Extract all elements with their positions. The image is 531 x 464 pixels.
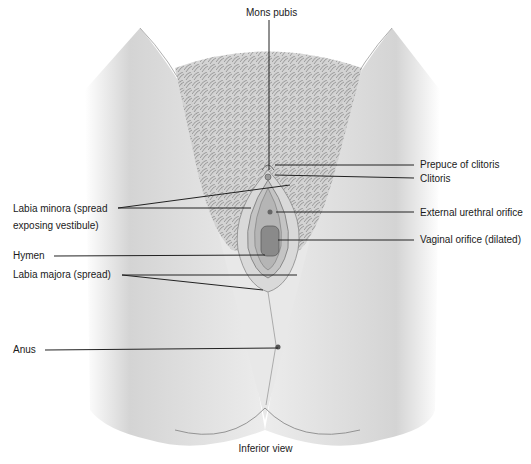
urethral-orifice-shape <box>268 210 273 215</box>
label-labia-majora: Labia majora (spread) <box>13 268 111 282</box>
label-hymen: Hymen <box>13 249 45 263</box>
label-prepuce-of-clitoris: Prepuce of clitoris <box>420 158 499 172</box>
label-labia-minora: Labia minora (spread exposing vestibule) <box>13 200 108 234</box>
label-vaginal-orifice: Vaginal orifice (dilated) <box>420 233 521 247</box>
label-mons-pubis: Mons pubis <box>246 6 297 20</box>
label-clitoris: Clitoris <box>420 172 451 186</box>
label-labia-minora-line1: Labia minora (spread <box>13 200 108 217</box>
label-labia-minora-line2: exposing vestibule) <box>13 217 108 234</box>
label-anus: Anus <box>13 343 36 357</box>
figure-caption: Inferior view <box>0 443 531 454</box>
anus-shape <box>276 345 281 350</box>
clitoris-shape <box>265 174 271 180</box>
label-external-urethral-orifice: External urethral orifice <box>420 206 523 220</box>
vaginal-orifice-shape <box>261 226 279 256</box>
